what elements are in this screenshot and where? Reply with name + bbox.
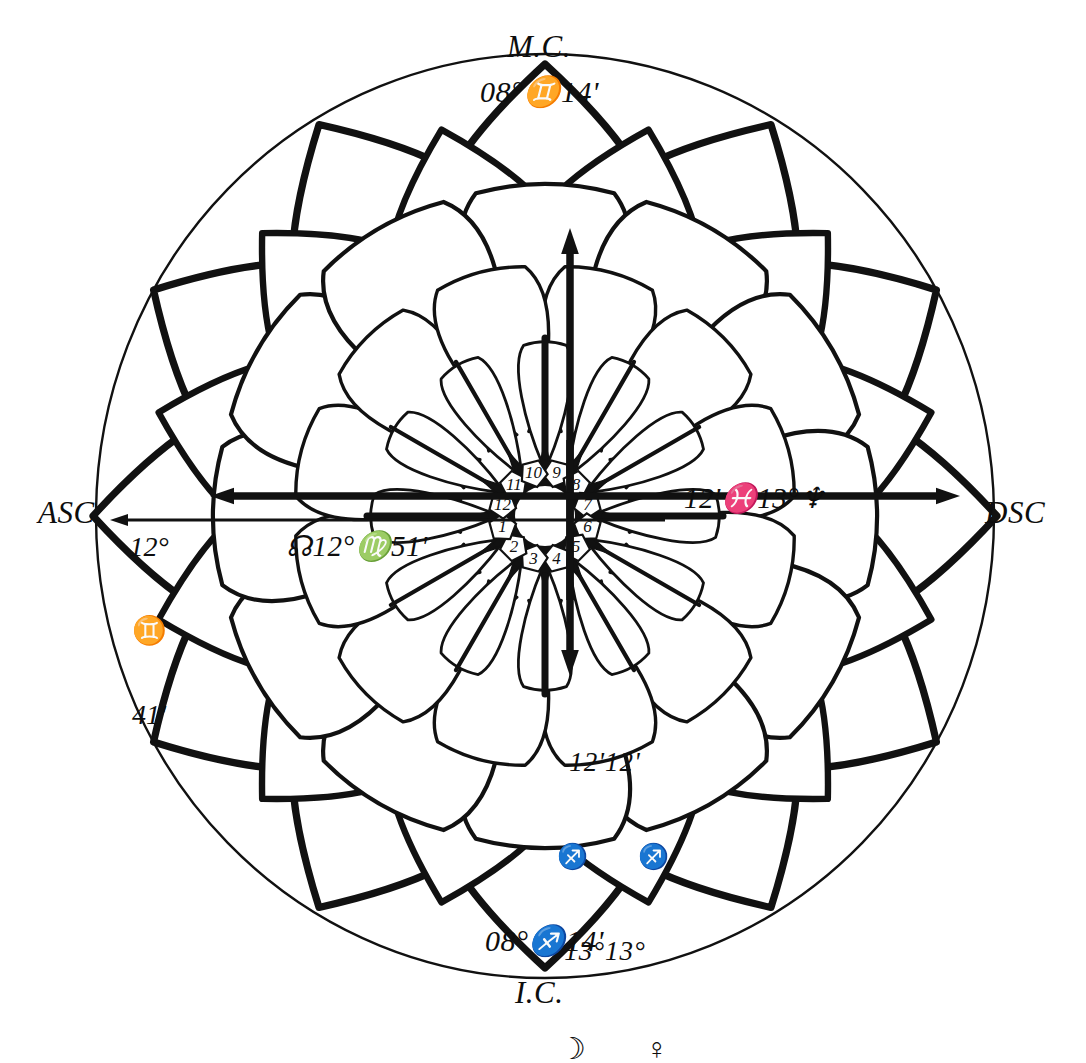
label-asc: ASC xyxy=(38,497,95,530)
asc-sign-glyph: ♊ xyxy=(118,617,180,645)
label-north-node: ☊12°♍51' xyxy=(286,531,428,561)
label-mc: M.C. xyxy=(507,31,571,64)
asc-minute: 41' xyxy=(118,701,180,729)
cluster-sign-glyphs: ♐ ♐ xyxy=(545,842,665,872)
label-asc-degrees: 12° ♊ 41' xyxy=(118,477,180,785)
asc-degree: 12° xyxy=(118,533,180,561)
label-mc-degree: 08°♊14' xyxy=(480,76,599,108)
cluster-planet-glyphs: ☽ ♀ xyxy=(545,1031,665,1063)
cluster-minutes: 12'12' xyxy=(545,747,665,779)
planet-cluster-moon-venus: 12'12' ♐ ♐ 13°13° ☽ ♀ xyxy=(545,683,665,1063)
label-neptune: 12'♓13°♆ xyxy=(684,483,826,513)
cluster-degrees: 13°13° xyxy=(545,936,665,968)
label-dsc: DSC xyxy=(985,497,1045,530)
